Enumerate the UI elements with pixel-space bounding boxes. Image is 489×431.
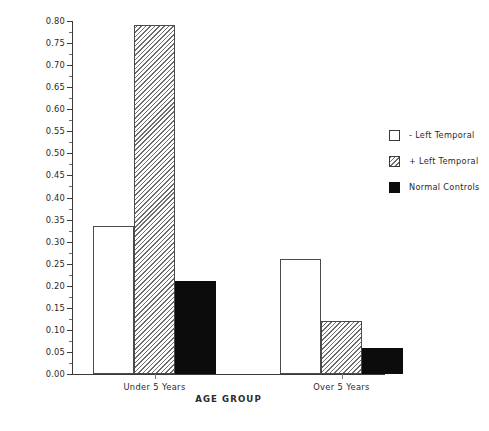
bar <box>280 259 321 374</box>
y-axis-line <box>72 21 73 375</box>
x-tick-label: Over 5 Years <box>313 382 370 392</box>
y-tick-mark <box>67 374 72 375</box>
y-tick-label: 0.50 <box>46 148 65 158</box>
legend-label: Normal Controls <box>409 182 480 192</box>
y-tick-label: 0.55 <box>46 126 65 136</box>
y-tick-label: 0.40 <box>46 193 65 203</box>
bar <box>175 281 216 374</box>
legend-swatch-open <box>389 130 400 141</box>
y-tick-mark <box>67 153 72 154</box>
bar <box>362 348 403 374</box>
y-tick-mark <box>67 352 72 353</box>
legend-swatch-solid <box>389 182 400 193</box>
y-tick-label: 0.35 <box>46 215 65 225</box>
y-minor-tick-mark <box>69 186 72 187</box>
y-minor-tick-mark <box>69 120 72 121</box>
y-tick-label: 0.45 <box>46 170 65 180</box>
y-minor-tick-mark <box>69 231 72 232</box>
y-tick-label: 0.30 <box>46 237 65 247</box>
y-minor-tick-mark <box>69 142 72 143</box>
y-minor-tick-mark <box>69 319 72 320</box>
y-tick-mark <box>67 21 72 22</box>
legend-label: + Left Temporal <box>409 156 478 166</box>
y-tick-mark <box>67 131 72 132</box>
y-tick-label: 0.00 <box>46 369 65 379</box>
x-axis-line <box>72 374 385 375</box>
y-minor-tick-mark <box>69 297 72 298</box>
y-tick-label: 0.25 <box>46 259 65 269</box>
legend-item: Normal Controls <box>389 174 487 200</box>
y-tick-label: 0.80 <box>46 16 65 26</box>
y-minor-tick-mark <box>69 363 72 364</box>
bar-chart-figure: Mean Morphological Errors per Propositio… <box>0 0 489 431</box>
legend-label: - Left Temporal <box>409 130 475 140</box>
y-tick-mark <box>67 175 72 176</box>
y-tick-label: 0.05 <box>46 347 65 357</box>
x-axis-tick <box>342 374 343 379</box>
bar <box>321 321 362 374</box>
y-tick-mark <box>67 65 72 66</box>
y-minor-tick-mark <box>69 253 72 254</box>
x-axis-title: AGE GROUP <box>72 394 385 404</box>
y-tick-label: 0.60 <box>46 104 65 114</box>
y-minor-tick-mark <box>69 341 72 342</box>
y-tick-mark <box>67 330 72 331</box>
legend-item: - Left Temporal <box>389 122 487 148</box>
y-tick-mark <box>67 43 72 44</box>
plot-area: 0.000.050.100.150.200.250.300.350.400.45… <box>72 21 385 374</box>
bar <box>134 25 175 374</box>
y-minor-tick-mark <box>69 98 72 99</box>
y-tick-mark <box>67 198 72 199</box>
chart-legend: - Left Temporal+ Left TemporalNormal Con… <box>389 122 487 200</box>
legend-swatch-hatch <box>389 156 400 167</box>
y-minor-tick-mark <box>69 54 72 55</box>
x-tick-label: Under 5 Years <box>123 382 185 392</box>
y-minor-tick-mark <box>69 164 72 165</box>
y-tick-mark <box>67 87 72 88</box>
y-tick-label: 0.70 <box>46 60 65 70</box>
y-tick-label: 0.15 <box>46 303 65 313</box>
y-minor-tick-mark <box>69 76 72 77</box>
y-tick-mark <box>67 109 72 110</box>
y-tick-mark <box>67 242 72 243</box>
y-tick-label: 0.20 <box>46 281 65 291</box>
y-tick-mark <box>67 308 72 309</box>
y-tick-mark <box>67 220 72 221</box>
bar <box>93 226 134 374</box>
y-tick-label: 0.65 <box>46 82 65 92</box>
legend-item: + Left Temporal <box>389 148 487 174</box>
y-minor-tick-mark <box>69 32 72 33</box>
y-minor-tick-mark <box>69 209 72 210</box>
y-tick-mark <box>67 286 72 287</box>
y-tick-mark <box>67 264 72 265</box>
y-tick-label: 0.10 <box>46 325 65 335</box>
y-tick-label: 0.75 <box>46 38 65 48</box>
x-axis-tick <box>155 374 156 379</box>
y-minor-tick-mark <box>69 275 72 276</box>
